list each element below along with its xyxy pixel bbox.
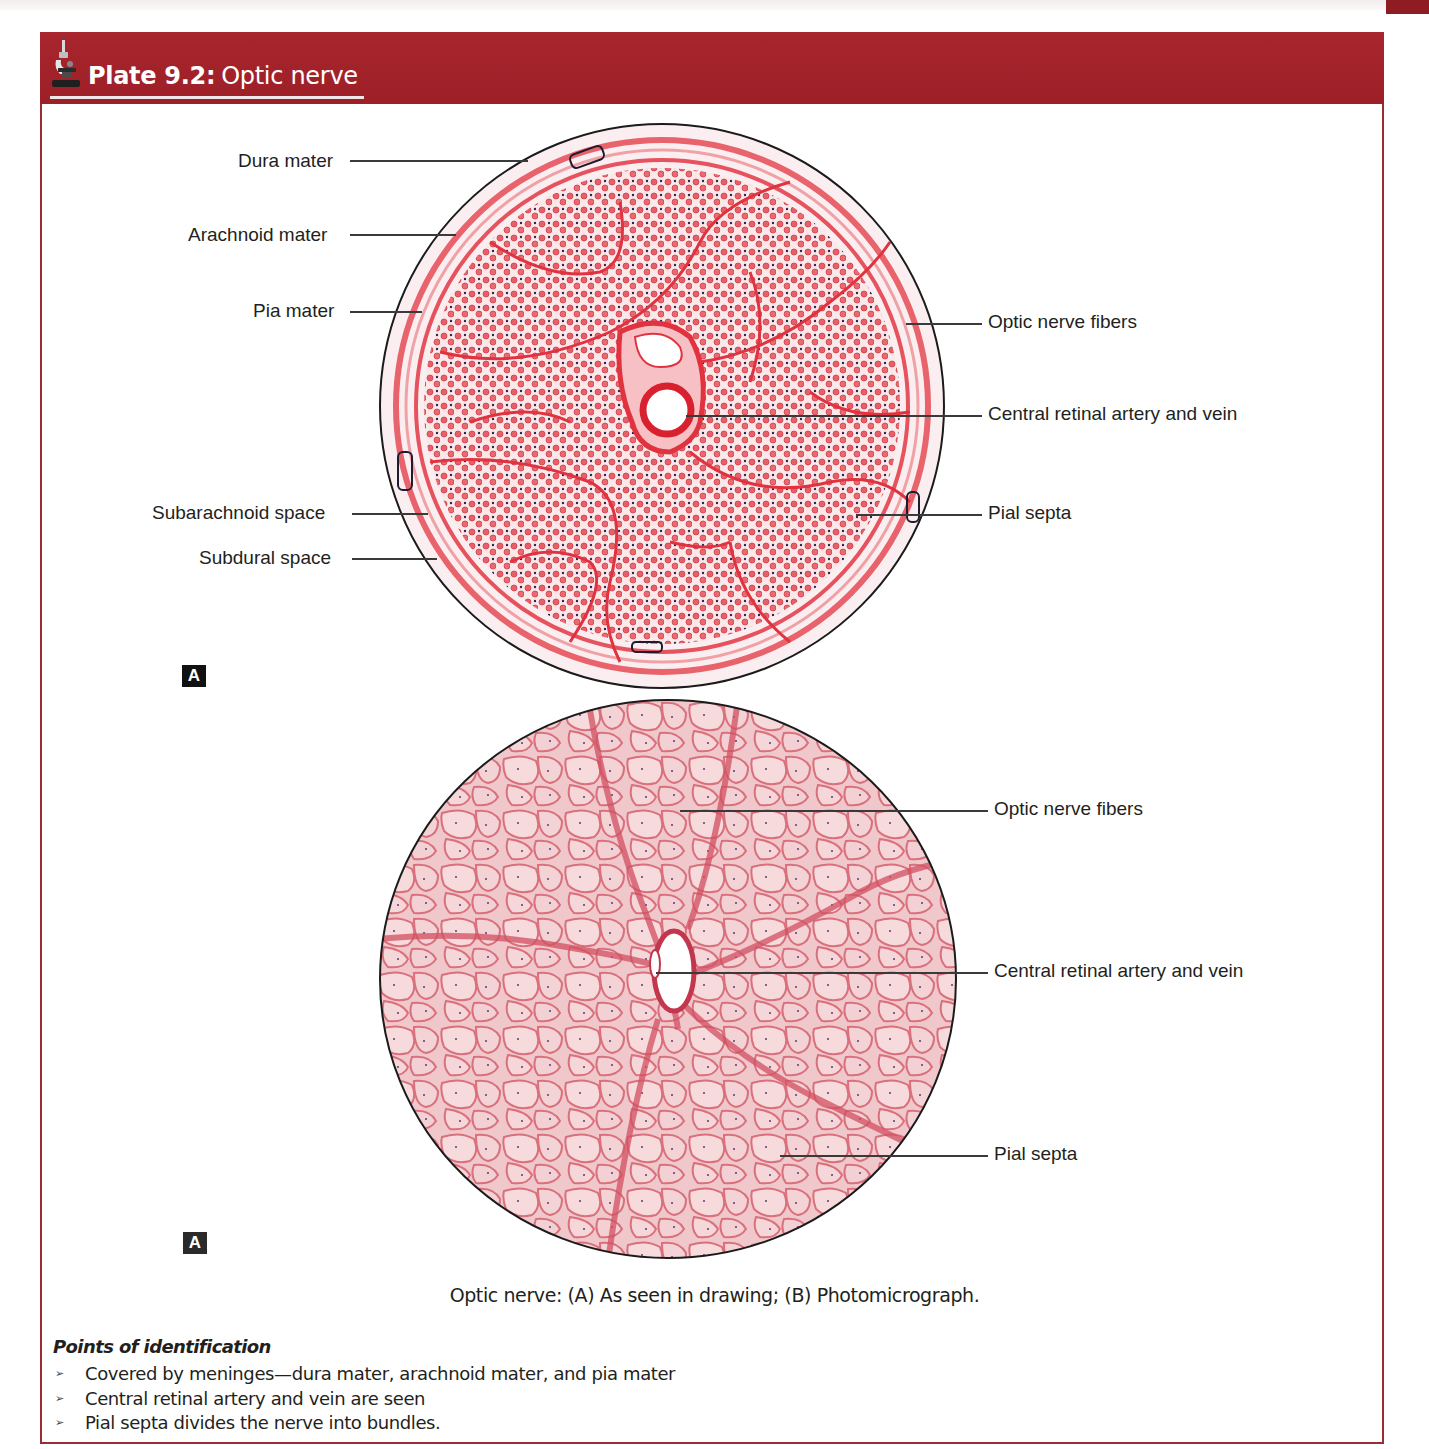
label-optic-nerve-fibers-b: Optic nerve fibers xyxy=(994,798,1143,820)
label-arachnoid-mater: Arachnoid mater xyxy=(188,224,327,246)
leader-pial-septa-b xyxy=(780,1155,988,1157)
leader-subarachnoid-space xyxy=(352,513,428,515)
plate-name: Optic nerve xyxy=(221,62,358,90)
running-header-strip xyxy=(0,0,1429,10)
figure-a-drawing xyxy=(370,122,954,692)
label-pial-septa-b: Pial septa xyxy=(994,1143,1077,1165)
plate-title: Plate 9.2:Optic nerve xyxy=(88,62,358,90)
microscope-icon xyxy=(50,38,82,90)
arrow-bullet-icon: ➢ xyxy=(55,1362,64,1387)
leader-pial-septa-a xyxy=(856,514,982,516)
leader-central-retinal-b xyxy=(656,972,988,974)
label-pia-mater: Pia mater xyxy=(253,300,334,322)
leader-central-retinal-a xyxy=(686,415,982,417)
figure-b-photomicrograph xyxy=(378,699,960,1261)
figure-caption: Optic nerve: (A) As seen in drawing; (B)… xyxy=(0,1284,1429,1306)
leader-subdural-space xyxy=(352,558,437,560)
label-optic-nerve-fibers-a: Optic nerve fibers xyxy=(988,311,1137,333)
point-item: ➢Pial septa divides the nerve into bundl… xyxy=(53,1411,675,1436)
leader-optic-nerve-fibers-b xyxy=(680,810,988,812)
plate-number: Plate 9.2: xyxy=(88,62,215,90)
page-corner-tab xyxy=(1386,0,1429,14)
leader-optic-nerve-fibers-a xyxy=(906,323,982,325)
leader-arachnoid-mater xyxy=(350,234,456,236)
point-item: ➢Covered by meninges—dura mater, arachno… xyxy=(53,1362,675,1387)
label-subarachnoid-space: Subarachnoid space xyxy=(152,502,325,524)
leader-pia-mater xyxy=(350,311,422,313)
arrow-bullet-icon: ➢ xyxy=(55,1387,64,1412)
label-pial-septa-a: Pial septa xyxy=(988,502,1071,524)
label-central-retinal-b: Central retinal artery and vein xyxy=(994,960,1243,982)
label-dura-mater: Dura mater xyxy=(238,150,333,172)
title-underline xyxy=(50,96,364,99)
arrow-bullet-icon: ➢ xyxy=(55,1411,64,1436)
label-subdural-space: Subdural space xyxy=(199,547,331,569)
leader-dura-mater xyxy=(350,160,528,162)
figure-a-badge: A xyxy=(182,665,206,687)
point-item: ➢Central retinal artery and vein are see… xyxy=(53,1387,675,1412)
figure-b-badge: A xyxy=(183,1232,207,1254)
points-title: Points of identification xyxy=(53,1336,271,1357)
points-list: ➢Covered by meninges—dura mater, arachno… xyxy=(53,1362,675,1436)
label-central-retinal-a: Central retinal artery and vein xyxy=(988,403,1237,425)
